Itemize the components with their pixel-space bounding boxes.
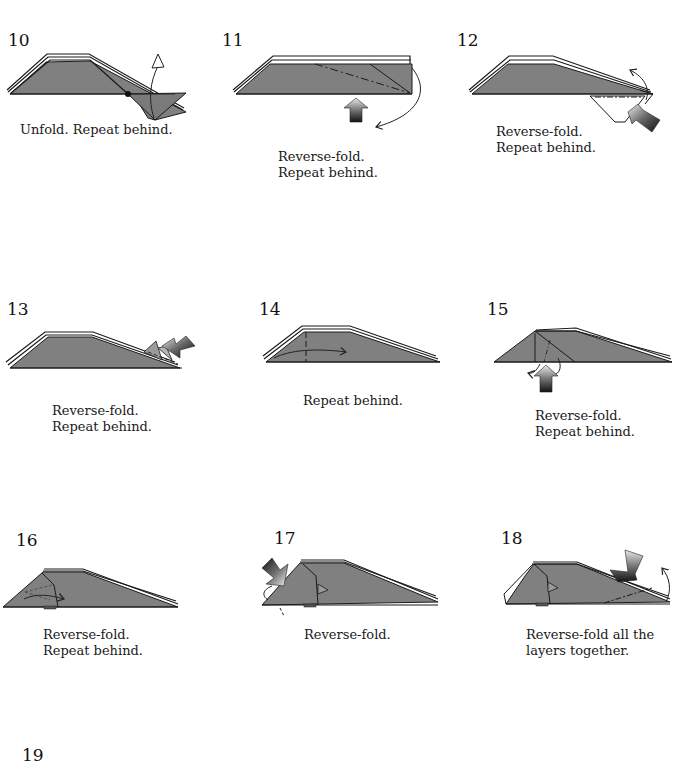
step-number-19: 19 [22, 745, 44, 765]
step-14-caption: Repeat behind. [303, 393, 403, 409]
step-15-figure [480, 310, 681, 400]
step-17-caption: Reverse-fold. [304, 627, 391, 643]
step-number-17: 17 [274, 528, 296, 548]
step-10-caption: Unfold. Repeat behind. [20, 122, 173, 138]
step-13-figure [0, 320, 200, 380]
step-number-18: 18 [501, 528, 523, 548]
step-16-figure [0, 555, 200, 615]
step-number-13: 13 [7, 299, 29, 319]
step-18-caption: Reverse-fold all the layers together. [526, 627, 654, 659]
step-12-caption: Reverse-fold. Repeat behind. [496, 124, 596, 156]
step-13-caption: Reverse-fold. Repeat behind. [52, 403, 152, 435]
step-10-figure [0, 40, 200, 120]
step-14-figure [240, 310, 450, 380]
step-17-figure [240, 550, 450, 620]
step-11-caption: Reverse-fold. Repeat behind. [278, 149, 378, 181]
step-15-caption: Reverse-fold. Repeat behind. [535, 408, 635, 440]
step-11-figure [220, 40, 430, 130]
step-16-caption: Reverse-fold. Repeat behind. [43, 627, 143, 659]
step-18-figure [480, 550, 681, 620]
step-number-16: 16 [16, 530, 38, 550]
